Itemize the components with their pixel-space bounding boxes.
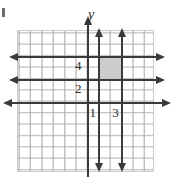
corner-mark xyxy=(2,8,5,17)
arrow-right-icon xyxy=(162,99,171,107)
arrow-left-icon xyxy=(3,99,12,107)
tick-label-x-3: 3 xyxy=(112,106,119,119)
arrow-down-icon xyxy=(118,163,126,172)
arrow-left-icon xyxy=(9,76,18,84)
boundary-line-x-equals-1 xyxy=(98,37,100,163)
y-axis-label: y xyxy=(88,8,94,22)
arrow-up-icon xyxy=(95,28,103,37)
coordinate-grid-figure: y 4 2 1 3 xyxy=(0,0,174,177)
tick-label-y-4: 4 xyxy=(75,59,82,72)
y-axis xyxy=(87,25,89,177)
arrow-right-icon xyxy=(156,53,165,61)
arrow-right-icon xyxy=(156,76,165,84)
grid-background xyxy=(17,30,154,172)
boundary-line-x-equals-3 xyxy=(121,37,123,163)
tick-label-y-2: 2 xyxy=(75,82,82,95)
shaded-solution-region xyxy=(98,56,121,79)
arrow-down-icon xyxy=(95,163,103,172)
arrow-left-icon xyxy=(9,53,18,61)
arrow-up-icon xyxy=(118,28,126,37)
tick-label-x-1: 1 xyxy=(89,106,96,119)
